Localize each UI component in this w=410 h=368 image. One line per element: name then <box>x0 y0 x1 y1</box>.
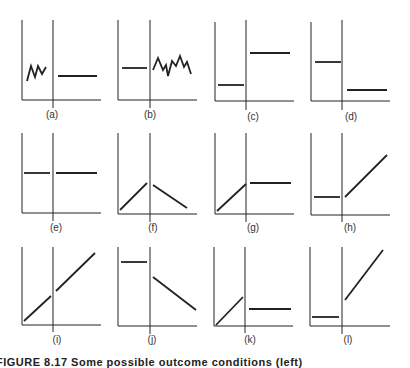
panel-label-k: (k) <box>244 334 256 345</box>
panel-label-d: (d) <box>345 111 357 122</box>
panel-label-a: (a) <box>46 109 58 120</box>
panel-d <box>311 20 390 110</box>
panel-a <box>22 20 101 108</box>
panel-c <box>215 20 294 110</box>
panel-l <box>310 247 390 334</box>
panel-h <box>311 133 390 222</box>
panel-label-e: (e) <box>50 222 62 233</box>
panel-f <box>118 133 197 222</box>
panel-e <box>22 133 101 221</box>
panel-g <box>215 133 294 222</box>
panel-k <box>214 247 293 333</box>
panel-label-g: (g) <box>247 222 259 233</box>
panel-label-j: (j) <box>148 334 157 345</box>
figure-caption: FIGURE 8.17 Some possible outcome condit… <box>0 356 303 368</box>
panel-label-f: (f) <box>148 222 157 233</box>
panel-label-i: (i) <box>53 334 62 345</box>
panel-label-c: (c) <box>247 111 259 122</box>
panel-label-l: (l) <box>344 334 353 345</box>
panel-label-h: (h) <box>344 222 356 233</box>
panel-label-b: (b) <box>144 109 156 120</box>
panel-j <box>118 247 197 334</box>
panel-i <box>22 247 101 332</box>
panel-b <box>118 20 197 108</box>
